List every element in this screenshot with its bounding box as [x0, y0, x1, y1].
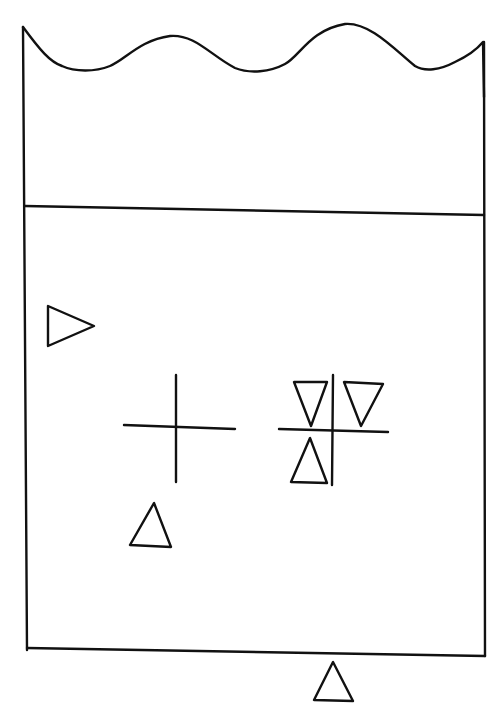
diagram-canvas	[0, 0, 503, 715]
triangle-down-icon	[344, 382, 383, 426]
triangle-up-icon	[291, 438, 327, 483]
triangle-up-icon	[130, 503, 171, 547]
level-line	[25, 206, 484, 215]
container-left-wall	[23, 27, 27, 650]
container-right-wall	[484, 42, 485, 656]
cross-right	[279, 375, 388, 485]
cross-left	[124, 375, 235, 482]
container-bottom	[27, 648, 485, 656]
triangle-up-icon	[314, 662, 353, 701]
container-outline	[23, 24, 484, 97]
triangle-down-icon	[294, 382, 327, 426]
triangle-right-icon	[48, 306, 94, 346]
